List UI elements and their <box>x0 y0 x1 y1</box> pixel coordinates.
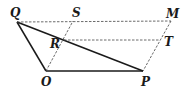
segment-QO <box>17 22 46 71</box>
geometry-diagram: Q S M R T O P <box>0 0 189 93</box>
label-M: M <box>165 7 180 21</box>
label-S: S <box>72 6 81 20</box>
segment-QP <box>17 22 143 71</box>
label-O: O <box>41 75 52 89</box>
label-T: T <box>164 35 174 49</box>
segment-QM <box>17 21 171 22</box>
label-R: R <box>49 37 60 51</box>
label-P: P <box>140 75 151 89</box>
label-Q: Q <box>10 6 21 20</box>
